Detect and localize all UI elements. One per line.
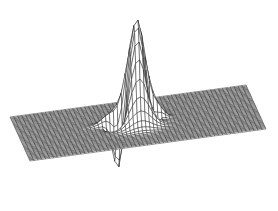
- surface-mesh: [10, 20, 266, 166]
- wireframe-surface-plot: [0, 0, 278, 211]
